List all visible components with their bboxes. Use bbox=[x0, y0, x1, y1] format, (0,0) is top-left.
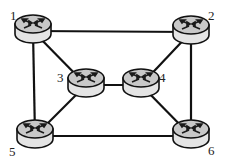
router-node-4 bbox=[123, 69, 159, 97]
router-node-1 bbox=[15, 15, 51, 43]
router-node-6 bbox=[173, 120, 209, 148]
router-icon-top bbox=[68, 69, 104, 87]
network-diagram-canvas: 123456 bbox=[0, 0, 228, 162]
router-node-3 bbox=[68, 69, 104, 97]
node-label-2: 2 bbox=[208, 8, 215, 23]
node-label-5: 5 bbox=[9, 144, 16, 159]
router-node-5 bbox=[17, 120, 53, 148]
router-icon-top bbox=[173, 16, 209, 34]
node-label-1: 1 bbox=[10, 8, 17, 23]
router-node-2 bbox=[173, 16, 209, 44]
router-icon-top bbox=[173, 120, 209, 138]
network-diagram: 123456 bbox=[0, 0, 228, 162]
node-label-6: 6 bbox=[208, 143, 215, 158]
router-icon-top bbox=[123, 69, 159, 87]
edge-1-2 bbox=[33, 31, 191, 32]
router-icon-top bbox=[17, 120, 53, 138]
router-icon-top bbox=[15, 15, 51, 33]
node-label-4: 4 bbox=[159, 70, 166, 85]
node-label-3: 3 bbox=[57, 70, 64, 85]
